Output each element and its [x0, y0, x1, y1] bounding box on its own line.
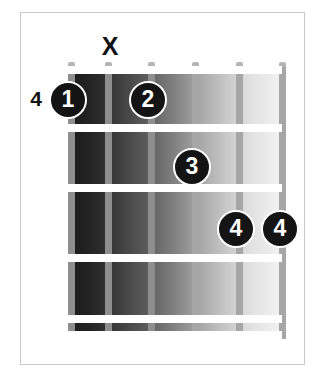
nut-line — [68, 66, 282, 74]
string-1-high-e — [279, 66, 286, 339]
fretboard — [68, 66, 282, 339]
finger-dot-string-4-fret-2: 3 — [173, 148, 211, 186]
string-5-a — [105, 66, 112, 339]
fret-line-3 — [68, 254, 282, 262]
fret-line-2 — [68, 184, 282, 192]
finger-dot-string-5-fret-3: 4 — [217, 210, 255, 248]
string-3-g — [192, 66, 199, 339]
fret-line-5 — [68, 331, 282, 339]
chord-diagram-canvas: 4 X 12344 — [0, 0, 316, 378]
finger-dot-string-3-fret-1: 2 — [129, 81, 167, 119]
finger-dot-string-6-fret-3: 4 — [261, 210, 299, 248]
string-2-b — [236, 66, 243, 339]
fret-line-1 — [68, 124, 282, 132]
starting-fret-number: 4 — [30, 88, 42, 109]
fret-line-4 — [68, 315, 282, 323]
mute-marker-string-2: X — [102, 34, 119, 59]
finger-dot-string-1-fret-1: 1 — [49, 81, 87, 119]
